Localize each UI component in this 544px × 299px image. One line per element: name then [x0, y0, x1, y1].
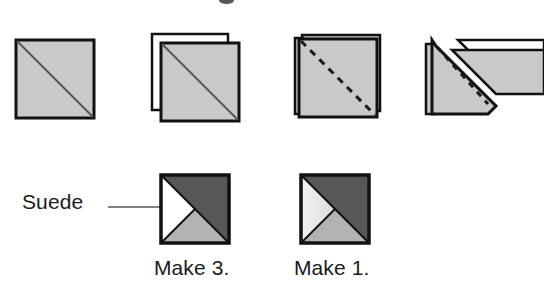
- step-2-stacked-squares: [148, 30, 248, 130]
- step-4-trimmed-units: [424, 18, 544, 130]
- step-2-svg: [148, 30, 248, 130]
- unit-make-1: [299, 173, 371, 245]
- step-3-svg: [292, 32, 388, 128]
- step-3-stitched-squares: [292, 32, 388, 128]
- unit-make-1-svg: [299, 173, 371, 245]
- unit-make-3: [159, 173, 231, 245]
- step-1-single-square: [14, 38, 98, 122]
- step-4-svg: [424, 18, 544, 130]
- unit-make-3-caption: Make 3.: [154, 256, 229, 280]
- suede-callout-label: Suede: [22, 190, 83, 214]
- step-1-svg: [14, 38, 98, 122]
- unit-make-3-svg: [159, 173, 231, 245]
- unit-make-1-caption: Make 1.: [294, 256, 369, 280]
- clipped-glyph-artifact: [219, 0, 234, 4]
